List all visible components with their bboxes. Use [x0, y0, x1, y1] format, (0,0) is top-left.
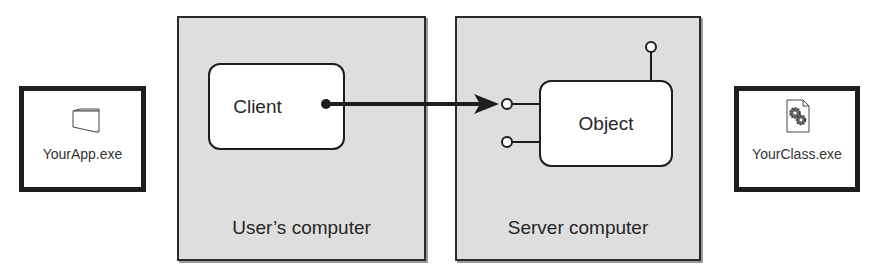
interface-left-top: [502, 99, 540, 109]
connectors-layer: [0, 0, 885, 278]
client-to-object-arrow: [321, 94, 499, 114]
interface-left-bottom: [502, 137, 540, 147]
interface-top: [646, 42, 656, 81]
